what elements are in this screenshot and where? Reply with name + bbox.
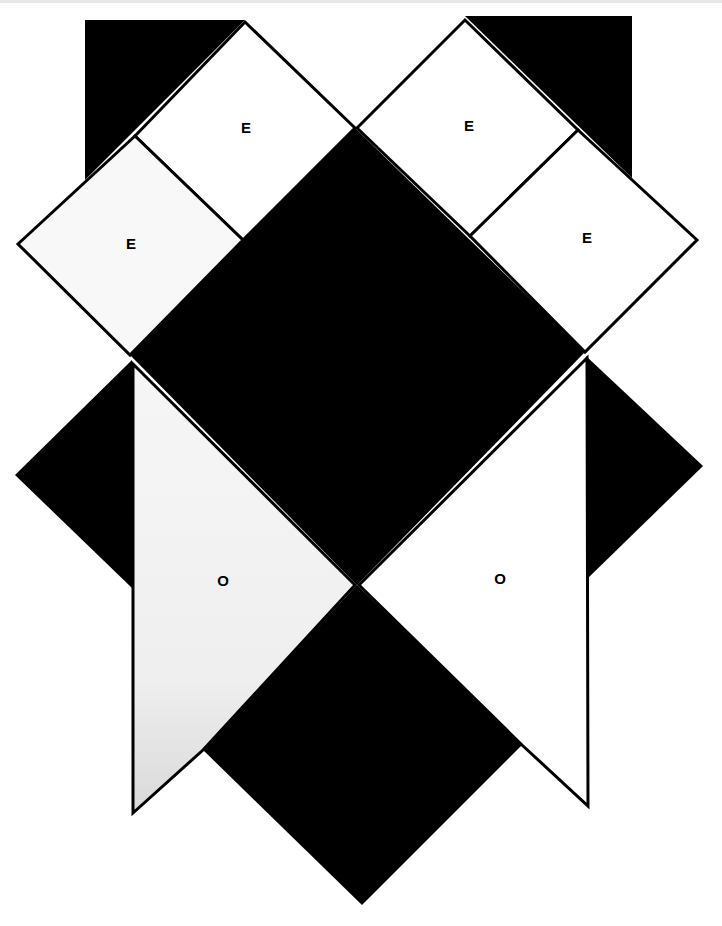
top-edge-artifact — [0, 0, 722, 3]
black-triangle-right — [586, 356, 703, 580]
label-e-top-right: E — [464, 117, 474, 134]
label-o-left: O — [217, 572, 229, 589]
label-e-top-left: E — [241, 119, 251, 136]
label-e-outer-left: E — [126, 235, 136, 252]
pattern-diagram: E E E E O O — [0, 0, 722, 926]
black-triangle-left — [15, 360, 132, 588]
label-e-outer-right: E — [582, 229, 592, 246]
label-o-right: O — [494, 570, 506, 587]
